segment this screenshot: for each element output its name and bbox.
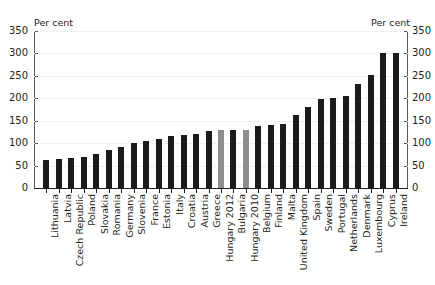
x-axis-label-text: Netherlands — [349, 194, 359, 252]
x-axis-label: Slovenia — [137, 194, 147, 234]
y-axis-tick-label-right: 50 — [412, 161, 425, 171]
x-axis-label-text: Denmark — [362, 194, 372, 238]
y-axis-tick-label-right: 0 — [412, 183, 418, 193]
y-axis-tick — [404, 31, 407, 32]
bar — [393, 53, 399, 188]
x-axis-label-text: Bulgaria — [237, 194, 247, 233]
bar — [230, 130, 236, 188]
x-axis-tick — [196, 189, 197, 193]
x-axis-tick — [383, 189, 384, 193]
y-axis-tick-label-left: 150 — [0, 116, 28, 126]
x-axis-tick — [246, 189, 247, 193]
x-axis-label-text: Croatia — [187, 194, 197, 228]
x-axis-label: Denmark — [362, 194, 372, 238]
y-axis-tick-label-left: 350 — [0, 26, 28, 36]
y-axis-tick — [404, 98, 407, 99]
x-axis-label: Sweden — [324, 194, 334, 232]
bar — [343, 96, 349, 188]
y-axis-tick-label-left: 0 — [0, 183, 28, 193]
y-axis-tick — [404, 53, 407, 54]
x-axis-tick — [271, 189, 272, 193]
bar — [181, 135, 187, 188]
x-axis-tick — [371, 189, 372, 193]
x-axis-label-text: Poland — [87, 194, 97, 226]
x-axis-tick — [308, 189, 309, 193]
y-axis-tick — [404, 76, 407, 77]
y-axis-left — [34, 31, 35, 188]
y-axis-tick-label-left: 200 — [0, 93, 28, 103]
x-axis-label: Lithuania — [50, 194, 60, 238]
bar — [368, 75, 374, 188]
x-axis-label-text: Slovakia — [100, 194, 110, 234]
x-axis-label-text: Sweden — [324, 194, 334, 232]
y-axis-tick-label-right: 350 — [412, 26, 431, 36]
y-axis-tick — [35, 53, 38, 54]
y-axis-tick-label-left: 250 — [0, 71, 28, 81]
x-axis-tick — [171, 189, 172, 193]
y-axis-tick-label-right: 100 — [412, 138, 431, 148]
x-axis-label: Estonia — [162, 194, 172, 229]
y-axis-tick — [35, 31, 38, 32]
x-axis-label: Italy — [175, 194, 185, 215]
x-axis-label: Romania — [112, 194, 122, 236]
bar — [380, 53, 386, 188]
x-axis-tick — [159, 189, 160, 193]
x-axis-label: Latvia — [63, 194, 73, 223]
x-axis-label-text: Malta — [287, 194, 297, 220]
x-axis-tick — [46, 189, 47, 193]
x-axis-label: Bulgaria — [237, 194, 247, 233]
x-axis-tick — [84, 189, 85, 193]
x-axis-label: Greece — [212, 194, 222, 228]
x-axis-label-text: Cyprus — [387, 194, 397, 227]
bar — [218, 130, 224, 188]
bar — [255, 126, 261, 188]
bar — [156, 139, 162, 188]
bar — [81, 157, 87, 188]
x-axis-label: Luxembourg — [374, 194, 384, 253]
bar — [131, 143, 137, 188]
x-axis-label: Czech Republic — [75, 194, 85, 266]
x-axis-label-text: Spain — [312, 194, 322, 221]
x-axis-label-text: Luxembourg — [374, 194, 384, 253]
gridline — [34, 76, 408, 77]
x-axis-label-text: Hungary 2012 — [225, 194, 235, 262]
bar — [168, 136, 174, 188]
gridline — [34, 31, 408, 32]
x-axis-label: Slovakia — [100, 194, 110, 234]
y-axis-tick — [404, 166, 407, 167]
x-axis-tick — [296, 189, 297, 193]
bar — [93, 154, 99, 188]
x-axis-label: Hungary 2010 — [250, 194, 260, 262]
gridline — [34, 121, 408, 122]
bar — [206, 131, 212, 188]
x-axis-label-text: Belgium — [262, 194, 272, 233]
x-axis-label-text: United Kingdom — [299, 194, 309, 270]
x-axis-tick — [358, 189, 359, 193]
gridline — [34, 98, 408, 99]
y-axis-tick-label-left: 100 — [0, 138, 28, 148]
x-axis-label-text: Czech Republic — [75, 194, 85, 266]
x-axis-tick — [96, 189, 97, 193]
x-axis-tick — [184, 189, 185, 193]
bar-chart: Per cent Per cent 0050501001001501502002… — [0, 0, 435, 285]
bar — [56, 159, 62, 188]
x-axis-tick — [283, 189, 284, 193]
cropped-title-remnant — [30, 0, 410, 7]
bar — [293, 115, 299, 188]
y-axis-tick-label-left: 50 — [0, 161, 28, 171]
x-axis-tick — [333, 189, 334, 193]
x-axis-label: France — [150, 194, 160, 226]
bar — [355, 84, 361, 188]
x-axis-tick — [146, 189, 147, 193]
x-axis-label-text: Hungary 2010 — [250, 194, 260, 262]
x-axis-label-text: Finland — [274, 194, 284, 228]
y-axis-tick — [35, 166, 38, 167]
x-axis-tick — [121, 189, 122, 193]
x-axis-label-text: Germany — [125, 194, 135, 238]
bar — [318, 99, 324, 188]
bar — [68, 158, 74, 189]
x-axis-label: Portugal — [337, 194, 347, 233]
x-axis-label-text: Latvia — [63, 194, 73, 223]
x-axis-label-text: Lithuania — [50, 194, 60, 238]
y-axis-tick-label-right: 250 — [412, 71, 431, 81]
